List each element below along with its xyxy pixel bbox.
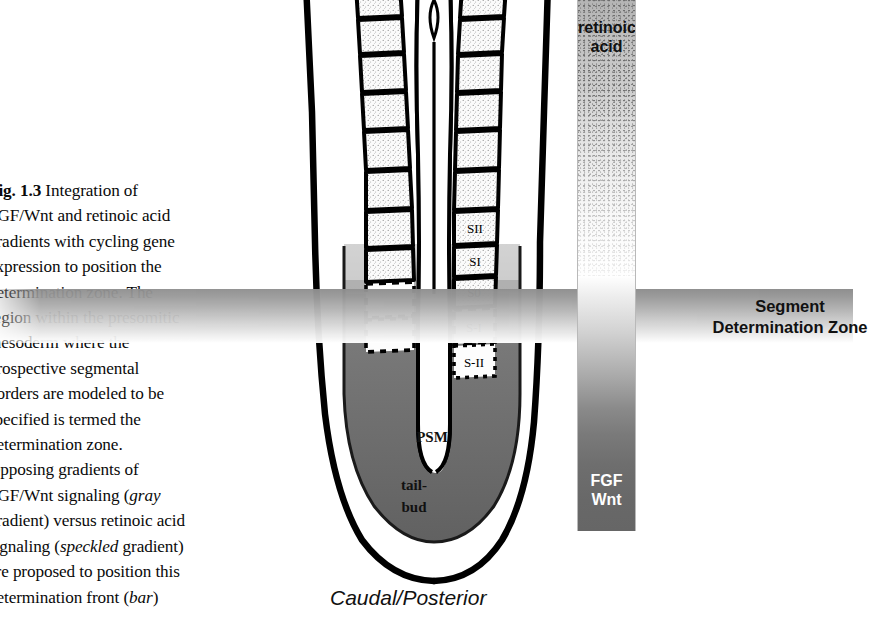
tailbud-label: tail-	[401, 477, 427, 493]
caption-line-text: Integration of	[41, 181, 138, 200]
caption-line: signaling (speckled gradient)	[0, 534, 260, 559]
somite-column-left	[356, 0, 414, 282]
tailbud-label-cont: bud	[401, 499, 427, 515]
neural-tube	[417, 0, 452, 473]
figure-caption: Fig. 1.3 Integration of FGF/Wnt and reti…	[0, 178, 260, 610]
caption-line-text: signaling (	[0, 537, 60, 556]
retinoic-acid-label-line2: acid	[590, 38, 622, 55]
caption-line: borders are modeled to be	[0, 381, 260, 406]
caption-line-text: )	[153, 588, 159, 607]
caption-line: FGF/Wnt and retinoic acid	[0, 203, 260, 228]
caption-line: determination front (bar)	[0, 585, 260, 610]
caption-line: Opposing gradients of	[0, 457, 260, 482]
signaling-gradient-bar: retinoic acid FGF Wnt	[577, 0, 636, 531]
caption-line: Fig. 1.3 Integration of	[0, 178, 260, 203]
caption-line-text: gradient)	[118, 537, 183, 556]
somite-label-sminus2: S-II	[464, 355, 484, 370]
wnt-label: Wnt	[591, 491, 621, 508]
segment-determination-zone-label: Segment Determination Zone	[700, 296, 872, 338]
caption-line: expression to position the	[0, 254, 260, 279]
fgf-wnt-label: FGF Wnt	[578, 471, 635, 509]
sdz-line2: Determination Zone	[700, 317, 872, 338]
caption-line-text: FGF/Wnt signaling (	[0, 486, 129, 505]
caption-emphasis: bar	[129, 588, 153, 607]
somite-label-si: SI	[469, 254, 481, 269]
figure-number: Fig. 1.3	[0, 181, 41, 200]
psm-label: PSM	[416, 429, 448, 445]
somite-column-right	[454, 0, 506, 210]
caption-line-text: determination front (	[0, 588, 129, 607]
caption-emphasis: gray	[129, 486, 160, 505]
caption-line: gradient) versus retinoic acid	[0, 508, 260, 533]
somite-label-sii: SII	[467, 221, 483, 236]
sdz-line1: Segment	[700, 296, 872, 317]
axis-label-caudal-posterior: Caudal/Posterior	[330, 586, 486, 610]
fgf-label: FGF	[591, 472, 623, 489]
caption-line: FGF/Wnt signaling (gray	[0, 483, 260, 508]
caption-line: determination zone.	[0, 432, 260, 457]
caption-emphasis: speckled	[60, 537, 118, 556]
retinoic-acid-label-line1: retinoic	[578, 19, 636, 36]
caption-line: gradients with cycling gene	[0, 229, 260, 254]
retinoic-acid-label: retinoic acid	[578, 18, 635, 56]
caption-line: are proposed to position this	[0, 559, 260, 584]
caption-line: specified is termed the	[0, 407, 260, 432]
caption-line: prospective segmental	[0, 356, 260, 381]
